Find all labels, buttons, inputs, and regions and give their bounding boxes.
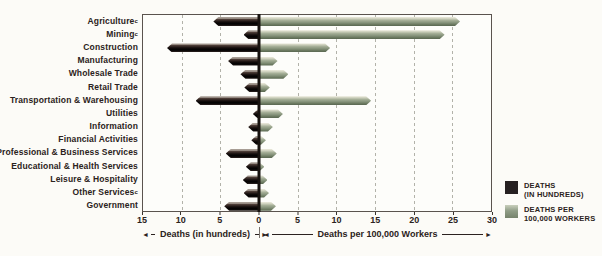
axis-tick: 10 (176, 212, 186, 225)
plot-area (142, 14, 492, 212)
bar-rate-per-100k (259, 83, 270, 92)
axis-tick-label: 20 (409, 215, 419, 225)
axis-tick-label: 5 (295, 215, 300, 225)
bar-rate-per-100k (259, 96, 371, 105)
left-axis-caption: Deaths (in hundreds) (157, 229, 253, 239)
left-arrow-icon: ◄ (263, 231, 270, 238)
bar-rate-per-100k (259, 70, 288, 79)
bar-row (143, 160, 491, 173)
bar-rate-per-100k (259, 202, 276, 211)
category-label: Wholesale Trade (0, 67, 138, 80)
bar-deaths-hundreds (228, 57, 259, 66)
axis-tick: 15 (137, 212, 147, 225)
axis-tick-label: 10 (331, 215, 341, 225)
category-label: Retail Trade (0, 80, 138, 93)
bar-row (143, 187, 491, 200)
bar-row (143, 147, 491, 160)
axis-caption-divider (259, 227, 260, 238)
category-label: Transportation & Warehousing (0, 93, 138, 106)
axis-tick: 15 (370, 212, 380, 225)
category-label: Information (0, 120, 138, 133)
axis-tick-label: 10 (176, 215, 186, 225)
bar-row (143, 200, 491, 213)
category-label: Financial Activities (0, 133, 138, 146)
x-axis-ticks: 15105051015202530 (142, 212, 492, 226)
caption-line (442, 234, 483, 235)
axis-tick-label: 25 (448, 215, 458, 225)
bar-row (143, 68, 491, 81)
bar-row (143, 121, 491, 134)
bar-row (143, 15, 491, 28)
bar-deaths-hundreds (196, 96, 259, 105)
bar-row (143, 28, 491, 41)
category-labels: AgriculturecMiningcConstructionManufactu… (0, 14, 138, 212)
bar-deaths-hundreds (167, 43, 259, 52)
bar-row (143, 81, 491, 94)
category-label: Manufacturing (0, 54, 138, 67)
category-label: Other Servicesc (0, 185, 138, 198)
right-arrow-icon: ► (485, 231, 492, 238)
legend-item-rate: DEATHS PER 100,000 WORKERS (505, 205, 595, 224)
bar-rate-per-100k (259, 123, 273, 132)
bar-rate-per-100k (259, 149, 277, 158)
bar-rate-per-100k (259, 57, 278, 66)
x-axis-label-left: ◄ Deaths (in hundreds) ► (142, 228, 258, 240)
legend-label-rate: DEATHS PER 100,000 WORKERS (524, 205, 595, 224)
legend-swatch-deaths (505, 181, 518, 194)
bar-row (143, 41, 491, 54)
bar-row (143, 134, 491, 147)
axis-tick: 25 (448, 212, 458, 225)
category-label: Utilities (0, 106, 138, 119)
bar-row (143, 173, 491, 186)
bar-deaths-hundreds (226, 149, 259, 158)
axis-tick: 10 (331, 212, 341, 225)
axis-tick-label: 0 (256, 215, 261, 225)
axis-tick-label: 5 (217, 215, 222, 225)
bar-row (143, 94, 491, 107)
category-label: Educational & Health Services (0, 159, 138, 172)
bar-deaths-hundreds (240, 70, 259, 79)
bar-row (143, 107, 491, 120)
axis-tick-label: 15 (370, 215, 380, 225)
right-axis-caption: Deaths per 100,000 Workers (315, 229, 441, 239)
axis-tick: 30 (487, 212, 497, 225)
legend-label-deaths: DEATHS (IN HUNDREDS) (524, 181, 584, 200)
caption-line (151, 234, 155, 235)
bar-rate-per-100k (259, 17, 460, 26)
x-axis-label-right: ◄ Deaths per 100,000 Workers ► (263, 228, 492, 240)
category-label: Government (0, 199, 138, 212)
category-label: Construction (0, 40, 138, 53)
left-arrow-icon: ◄ (142, 231, 149, 238)
category-label: Leisure & Hospitality (0, 172, 138, 185)
axis-tick-label: 30 (487, 215, 497, 225)
bar-deaths-hundreds (224, 202, 259, 211)
bar-rate-per-100k (259, 189, 269, 198)
bar-row (143, 55, 491, 68)
legend: DEATHS (IN HUNDREDS) DEATHS PER 100,000 … (505, 181, 595, 229)
category-label: Professional & Business Services (0, 146, 138, 159)
axis-tick: 5 (217, 212, 222, 225)
fatalities-by-industry-chart: AgriculturecMiningcConstructionManufactu… (0, 0, 602, 256)
category-label: Miningc (0, 27, 138, 40)
axis-tick: 20 (409, 212, 419, 225)
caption-line (272, 234, 313, 235)
legend-item-deaths: DEATHS (IN HUNDREDS) (505, 181, 595, 200)
legend-swatch-rate (505, 205, 518, 218)
bar-rate-per-100k (259, 43, 330, 52)
zero-axis-line (257, 14, 260, 212)
axis-tick: 5 (295, 212, 300, 225)
category-label: Agriculturec (0, 14, 138, 27)
bar-deaths-hundreds (213, 17, 259, 26)
bar-rate-per-100k (259, 109, 283, 118)
axis-tick: 0 (256, 212, 261, 225)
axis-tick-label: 15 (137, 215, 147, 225)
bar-rate-per-100k (259, 30, 445, 39)
